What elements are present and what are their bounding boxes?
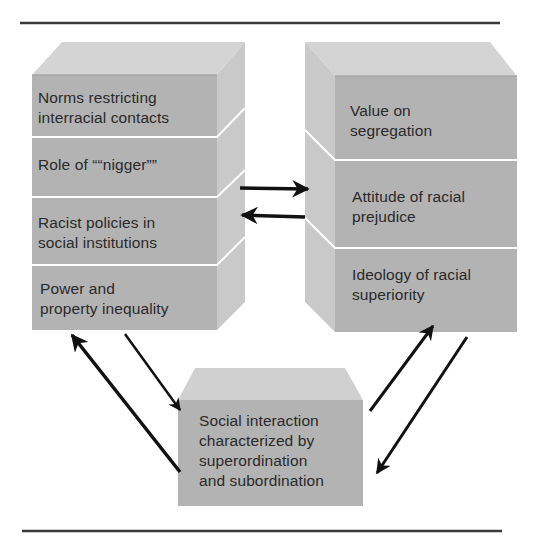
norms-line-1: Norms restricting: [38, 88, 169, 108]
arrow-bottom-to-left-block: [72, 335, 180, 472]
arrow-left-to-right: [240, 188, 308, 189]
value-line-1: Value on: [350, 101, 432, 121]
left-block-top-face: [32, 42, 245, 75]
left-segment-role: Role of ““nigger””: [38, 155, 157, 175]
left-block-side-face: [217, 42, 245, 330]
left-segment-policies: Racist policies in social institutions: [38, 213, 157, 253]
role-line-1: Role of ““nigger””: [38, 155, 157, 175]
policies-line-1: Racist policies in: [38, 213, 157, 233]
arrow-left-block-to-bottom: [125, 334, 180, 410]
left-segment-power: Power and property inequality: [40, 279, 169, 319]
arrow-bottom-to-right-block: [370, 326, 433, 411]
ideology-line-1: Ideology of racial: [352, 265, 471, 285]
right-segment-attitude: Attitude of racial prejudice: [352, 187, 465, 227]
value-line-2: segregation: [350, 121, 432, 141]
right-block-side-face: [305, 42, 335, 332]
attitude-line-2: prejudice: [352, 207, 465, 227]
right-segment-value: Value on segregation: [350, 101, 432, 141]
power-line-2: property inequality: [40, 299, 169, 319]
attitude-line-1: Attitude of racial: [352, 187, 465, 207]
social-line-2: characterized by: [199, 431, 324, 451]
bottom-block-top-face: [178, 368, 363, 400]
power-line-1: Power and: [40, 279, 169, 299]
right-block-top-face: [305, 42, 517, 76]
social-line-4: and subordination: [199, 471, 324, 491]
policies-line-2: social institutions: [38, 233, 157, 253]
bottom-segment-social-interaction: Social interaction characterized by supe…: [199, 411, 324, 491]
social-line-1: Social interaction: [199, 411, 324, 431]
right-segment-ideology: Ideology of racial superiority: [352, 265, 471, 305]
ideology-line-2: superiority: [352, 285, 471, 305]
left-segment-norms: Norms restricting interracial contacts: [38, 88, 169, 128]
social-line-3: superordination: [199, 451, 324, 471]
arrow-right-block-to-bottom: [377, 337, 467, 473]
arrow-right-to-left: [242, 215, 305, 217]
norms-line-2: interracial contacts: [38, 108, 169, 128]
